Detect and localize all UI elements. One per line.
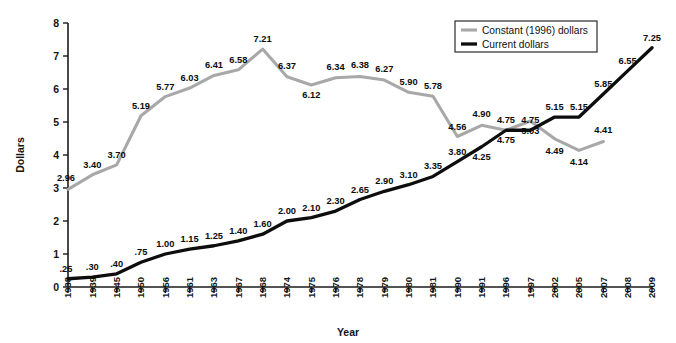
point-label: 5.77: [156, 82, 174, 92]
y-tick-label: 1: [53, 248, 59, 260]
x-tick-label: 1990: [452, 277, 463, 298]
point-label: 3.10: [400, 170, 418, 180]
x-axis: 1938193919451950195619611963196719681974…: [62, 276, 657, 298]
point-label: 6.03: [181, 73, 199, 83]
x-tick-label: 2008: [622, 277, 633, 298]
point-label: 4.25: [473, 152, 491, 162]
point-label: 6.34: [327, 62, 346, 72]
point-label: 6.55: [619, 56, 637, 66]
x-tick-label: 1967: [233, 277, 244, 298]
point-label: 5.15: [546, 102, 564, 112]
point-label: 5.85: [594, 79, 612, 89]
point-label: 1.15: [181, 234, 199, 244]
y-tick-label: 0: [53, 281, 59, 293]
point-label: 2.96: [57, 173, 75, 183]
point-label: 4.75: [497, 135, 515, 145]
point-label: 5.78: [424, 81, 442, 91]
legend-label: Current dollars: [482, 39, 549, 50]
point-label: 5.03: [521, 126, 539, 136]
point-label: 4.49: [546, 146, 564, 156]
point-label: 2.30: [327, 196, 345, 206]
point-label: 5.90: [400, 77, 418, 87]
x-tick-label: 1963: [208, 277, 219, 298]
x-tick-label: 1956: [160, 277, 171, 298]
x-tick-label: 1974: [281, 276, 292, 298]
y-tick-label: 2: [53, 215, 59, 227]
legend: Constant (1996) dollarsCurrent dollars: [455, 21, 597, 52]
point-label: 4.56: [448, 122, 466, 132]
y-tick-label: 4: [53, 149, 59, 161]
line-chart: 012345678 193819391945195019561961196319…: [0, 0, 676, 343]
point-label: 4.14: [570, 157, 589, 167]
point-label: 1.00: [156, 239, 174, 249]
point-label: 3.40: [83, 160, 101, 170]
x-tick-label: 1945: [111, 276, 122, 298]
point-label: 1.40: [229, 226, 247, 236]
legend-label: Constant (1996) dollars: [482, 25, 588, 36]
y-tick-label: 8: [53, 17, 59, 29]
y-tick-label: 6: [53, 83, 59, 95]
x-tick-label: 1979: [379, 277, 390, 298]
x-tick-label: 1978: [354, 277, 365, 298]
point-label: 3.80: [448, 147, 466, 157]
point-label: .40: [110, 259, 123, 269]
x-tick-label: 1980: [403, 277, 414, 298]
x-tick-label: 1997: [525, 277, 536, 298]
point-label: 1.60: [254, 219, 272, 229]
point-label: 2.10: [302, 203, 320, 213]
x-tick-label: 1991: [476, 276, 487, 298]
point-label: 6.12: [302, 90, 320, 100]
point-label: .75: [135, 247, 148, 257]
y-axis-title: Dollars: [14, 137, 26, 173]
point-label: 6.58: [229, 55, 247, 65]
point-label: 3.35: [424, 161, 442, 171]
x-axis-title: Year: [337, 326, 359, 338]
point-label: 1.25: [205, 231, 223, 241]
x-tick-label: 1996: [500, 277, 511, 298]
x-tick-label: 1950: [135, 277, 146, 298]
chart-container: 012345678 193819391945195019561961196319…: [0, 0, 676, 343]
point-label: 4.90: [473, 109, 491, 119]
point-label: 3.70: [108, 150, 126, 160]
point-label: 4.75: [497, 115, 515, 125]
point-label: 7.25: [643, 33, 661, 43]
x-tick-label: 2009: [646, 277, 657, 298]
y-axis: 012345678: [53, 17, 68, 293]
y-tick-label: 5: [53, 116, 59, 128]
point-label: 4.75: [521, 115, 539, 125]
x-tick-label: 1976: [330, 277, 341, 298]
x-tick-label: 2002: [549, 277, 560, 298]
point-label: 6.37: [278, 61, 296, 71]
point-label: 2.00: [278, 206, 296, 216]
x-tick-label: 1981: [427, 276, 438, 298]
point-label: .25: [60, 264, 73, 274]
point-label: 6.38: [351, 60, 369, 70]
x-tick-label: 2007: [598, 277, 609, 298]
x-tick-label: 2005: [573, 276, 584, 298]
point-label: 4.41: [594, 125, 612, 135]
x-tick-label: 1961: [184, 276, 195, 298]
point-label: 2.90: [375, 176, 393, 186]
point-label: 6.41: [205, 60, 223, 70]
point-label: 6.27: [375, 64, 393, 74]
y-tick-label: 7: [53, 50, 59, 62]
point-label: 5.19: [132, 101, 150, 111]
x-tick-label: 1968: [257, 277, 268, 298]
data-point-labels: 2.963.403.705.195.776.036.416.587.216.37…: [57, 33, 661, 274]
point-label: .30: [86, 262, 99, 272]
point-label: 5.15: [570, 102, 588, 112]
point-label: 7.21: [254, 34, 272, 44]
x-tick-label: 1939: [87, 277, 98, 298]
y-tick-label: 3: [53, 182, 59, 194]
point-label: 2.65: [351, 185, 369, 195]
x-tick-label: 1975: [306, 276, 317, 298]
